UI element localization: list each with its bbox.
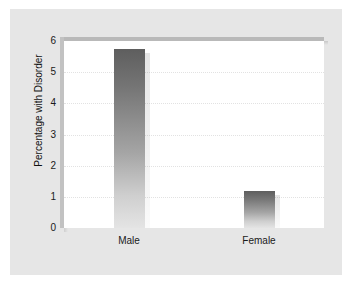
y-axis-tick-label: 6 (36, 36, 56, 46)
x-axis-tick-label-male: Male (118, 235, 140, 246)
x-axis-tick-labels: MaleFemale (64, 235, 324, 249)
gridline (64, 103, 324, 104)
y-axis-tick-labels: 0123456 (32, 41, 56, 228)
y-axis-tick-label: 4 (36, 98, 56, 108)
y-axis-tick-label: 0 (36, 223, 56, 233)
y-axis-tick-label: 3 (36, 130, 56, 140)
x-axis-tick-label-female: Female (242, 235, 275, 246)
chart-figure-panel: Percentage with Disorder 0123456 MaleFem… (10, 9, 342, 275)
gridline (64, 135, 324, 136)
gridline (64, 197, 324, 198)
y-axis-tick-label: 5 (36, 67, 56, 77)
bar-shadow (275, 195, 280, 228)
plot-area (64, 41, 324, 228)
bar-male[interactable] (114, 49, 145, 228)
gridline (64, 72, 324, 73)
y-axis-tick-label: 1 (36, 192, 56, 202)
bar-female[interactable] (244, 191, 275, 228)
gridline (64, 166, 324, 167)
bar-shadow (145, 53, 150, 228)
y-axis-tick-label: 2 (36, 161, 56, 171)
